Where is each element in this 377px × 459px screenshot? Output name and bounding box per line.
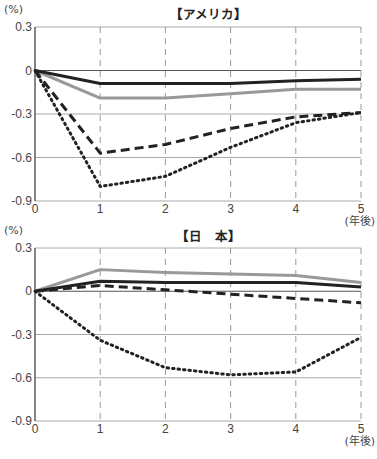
x-tick-label: 0 bbox=[32, 422, 39, 436]
y-tick-label: 0 bbox=[25, 64, 32, 78]
series-dotted-line bbox=[35, 291, 361, 375]
x-tick-label: 2 bbox=[162, 422, 169, 436]
y-tick-label: 0.3 bbox=[15, 241, 32, 255]
series-dashed-line bbox=[35, 285, 361, 302]
panel-title: 【アメリカ】 bbox=[170, 7, 247, 22]
y-tick-label: -0.3 bbox=[11, 107, 32, 121]
x-tick-label: 2 bbox=[162, 202, 169, 216]
x-tick-label: 5 bbox=[358, 422, 365, 436]
x-tick-label: 4 bbox=[292, 202, 299, 216]
series-black-solid-line bbox=[35, 71, 361, 84]
x-tick-label: 3 bbox=[227, 422, 234, 436]
y-tick-label: -0.3 bbox=[11, 328, 32, 342]
y-tick-label: -0.9 bbox=[11, 194, 32, 208]
y-tick-label: -0.9 bbox=[11, 414, 32, 428]
x-tick-label: 3 bbox=[227, 202, 234, 216]
x-tick-label: 4 bbox=[292, 422, 299, 436]
x-unit-label: (年後) bbox=[344, 434, 375, 448]
y-tick-label: -0.6 bbox=[11, 371, 32, 385]
impulse-response-charts: 0.30-0.3-0.6-0.9012345(%)【アメリカ】(年後)0.30-… bbox=[0, 0, 377, 459]
y-tick-label: -0.6 bbox=[11, 151, 32, 165]
x-tick-label: 1 bbox=[97, 422, 104, 436]
y-unit-label: (%) bbox=[4, 3, 23, 16]
x-tick-label: 1 bbox=[97, 202, 104, 216]
y-tick-label: 0 bbox=[25, 284, 32, 298]
x-unit-label: (年後) bbox=[344, 214, 375, 228]
panel-title: 【日 本】 bbox=[176, 229, 241, 244]
x-tick-label: 5 bbox=[358, 202, 365, 216]
x-tick-label: 0 bbox=[32, 202, 39, 216]
y-tick-label: 0.3 bbox=[15, 20, 32, 34]
y-unit-label: (%) bbox=[4, 224, 23, 237]
